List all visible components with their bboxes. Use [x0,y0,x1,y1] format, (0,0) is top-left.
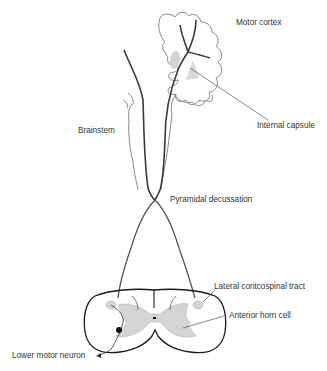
descending-left [118,200,155,298]
label-pyramidal-decussation: Pyramidal decussation [170,196,252,204]
corticospinal-diagram: Motor cortex Internal capsule Brainstem … [0,0,327,371]
right-tract [155,20,196,200]
label-anterior-horn-cell: Anterior horn cell [229,312,291,320]
internal-capsule-pointer [190,68,268,120]
label-motor-cortex: Motor cortex [236,19,282,27]
lower-motor-neuron-arrow [96,353,101,358]
label-brainstem: Brainstem [78,127,115,135]
brainstem-left-inner [123,100,128,108]
brainstem-left-outline [128,93,138,190]
cortex-lower-lobe [175,95,213,106]
lower-motor-neuron-cell [116,327,122,333]
motor-cortex-outline [159,12,222,104]
descending-right [155,200,195,298]
cortex-branch [188,52,210,58]
label-lateral-corticospinal-tract: Lateral coritcospinal tract [214,283,305,291]
central-canal [153,317,156,319]
right-lateral-tract [193,301,203,309]
label-lower-motor-neuron: Lower motor neuron [12,352,85,360]
label-internal-capsule: Internal capsule [257,122,315,130]
